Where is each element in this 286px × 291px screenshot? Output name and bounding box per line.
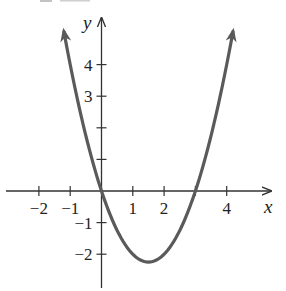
- x-tick-label: 4: [222, 199, 231, 218]
- x-tick-label: −2: [30, 199, 48, 218]
- axes: [6, 18, 271, 288]
- axis-ticks: [39, 65, 227, 255]
- y-tick-label: 4: [84, 56, 93, 75]
- y-tick-label: −1: [74, 214, 92, 233]
- x-tick-label: 2: [160, 199, 169, 218]
- tick-labels: −2−112443−1−2: [30, 56, 232, 265]
- y-tick-label: 3: [84, 87, 93, 106]
- x-tick-label: 1: [129, 199, 138, 218]
- cropped-text-remnant: [40, 0, 90, 2]
- parabola-graph: −2−112443−1−2 x y: [0, 0, 286, 291]
- x-axis-label: x: [263, 196, 273, 217]
- y-tick-label: −2: [74, 245, 92, 264]
- y-axis-label: y: [81, 12, 92, 33]
